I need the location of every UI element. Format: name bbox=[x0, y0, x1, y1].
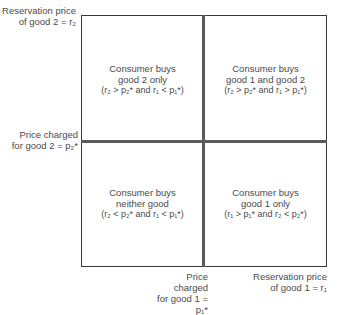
quadrant-subtitle: good 1 only bbox=[206, 198, 325, 209]
quadrant-subtitle: neither good bbox=[84, 198, 201, 209]
y-axis-label-reservation-price: Reservation price of good 2 = r₂ bbox=[0, 5, 76, 27]
quadrant-condition: (r₂ < p₂* and r₁ < p₁*) bbox=[84, 209, 201, 220]
quadrant-top-right: Consumer buys good 1 and good 2 (r₂ > p₂… bbox=[206, 63, 325, 96]
quadrant-condition: (r₁ > p₁* and r₂ < p₂*) bbox=[206, 209, 325, 220]
y-axis-label-price-charged: Price charged for good 2 = p₂* bbox=[0, 129, 78, 151]
label-line: of good 2 = r₂ bbox=[0, 16, 76, 27]
label-line: of good 1 = r₁ bbox=[240, 282, 327, 293]
label-line: Price charged bbox=[150, 271, 208, 293]
label-line: Reservation price bbox=[240, 271, 327, 282]
quadrant-subtitle: good 1 and good 2 bbox=[206, 74, 325, 85]
quadrant-title: Consumer buys bbox=[206, 187, 325, 198]
quadrant-subtitle: good 2 only bbox=[84, 74, 201, 85]
quadrant-title: Consumer buys bbox=[84, 187, 201, 198]
quadrant-title: Consumer buys bbox=[84, 63, 201, 74]
horizontal-divider-p2 bbox=[81, 140, 327, 143]
quadrant-condition: (r₂ > p₂* and r₁ < p₁*) bbox=[84, 85, 201, 96]
label-line: for good 2 = p₂* bbox=[0, 140, 78, 151]
x-axis-label-price-charged: Price charged for good 1 = p₁* bbox=[150, 271, 208, 315]
quadrant-top-left: Consumer buys good 2 only (r₂ > p₂* and … bbox=[84, 63, 201, 96]
label-line: for good 1 = p₁* bbox=[150, 293, 208, 315]
x-axis-label-reservation-price: Reservation price of good 1 = r₁ bbox=[240, 271, 327, 293]
quadrant-title: Consumer buys bbox=[206, 63, 325, 74]
quadrant-bottom-left: Consumer buys neither good (r₂ < p₂* and… bbox=[84, 187, 201, 220]
label-line: Price charged bbox=[0, 129, 78, 140]
label-line: Reservation price bbox=[0, 5, 76, 16]
quadrant-bottom-right: Consumer buys good 1 only (r₁ > p₁* and … bbox=[206, 187, 325, 220]
quadrant-condition: (r₂ > p₂* and r₁ > p₁*) bbox=[206, 85, 325, 96]
